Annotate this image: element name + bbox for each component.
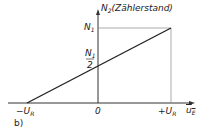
transfer-line	[27, 28, 171, 103]
diagram-canvas	[0, 0, 210, 138]
tick-half-numerator: N1	[85, 49, 96, 59]
tick-zero: 0	[95, 107, 101, 116]
tick-half-denominator: 2	[87, 61, 93, 70]
tick-pos-ur: +UR	[158, 107, 176, 117]
x-axis-label: uE	[186, 106, 196, 116]
y-axis-label: N2(Zählerstand)	[101, 4, 173, 14]
y-axis-arrow-icon	[96, 9, 100, 15]
tick-neg-ur: −UR	[16, 107, 34, 117]
panel-label: b)	[14, 119, 23, 128]
tick-n1: N1	[84, 23, 95, 33]
